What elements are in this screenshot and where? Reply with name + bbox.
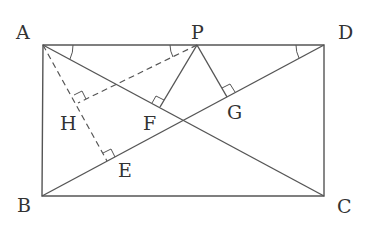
label-e: E (118, 159, 132, 181)
label-b: B (17, 194, 31, 216)
geometry-figure: A P D H F G E B C (0, 0, 373, 227)
angle-arc-d (296, 45, 299, 58)
angle-arc-p (170, 45, 173, 57)
label-a: A (15, 21, 30, 43)
segment-pg (197, 45, 227, 97)
label-p: P (191, 21, 204, 43)
label-f: F (143, 112, 156, 134)
angle-arc-a (70, 45, 73, 59)
label-h: H (60, 112, 77, 134)
right-angle-mark-e (103, 149, 115, 157)
right-angle-mark-h (74, 91, 86, 99)
label-g: G (227, 101, 242, 123)
label-d: D (338, 21, 353, 43)
label-c: C (337, 195, 352, 217)
